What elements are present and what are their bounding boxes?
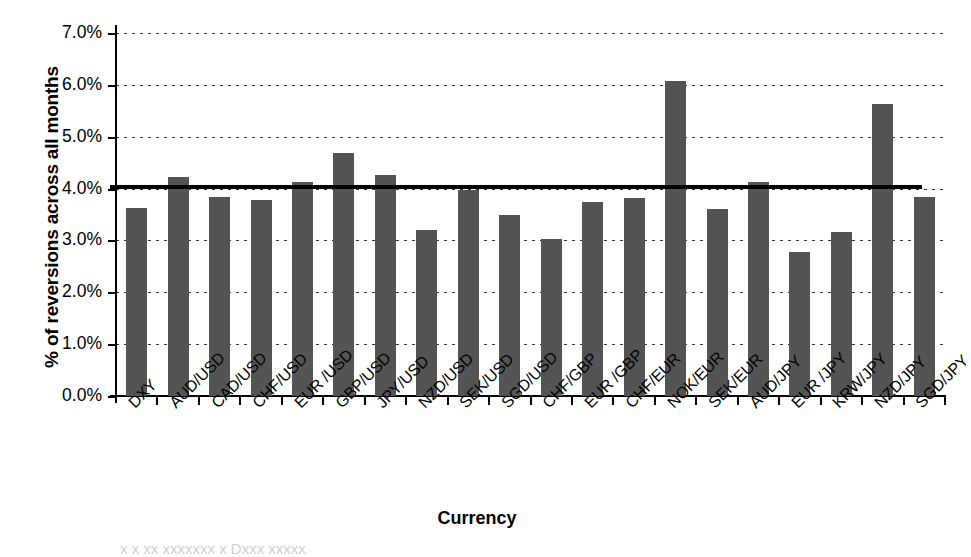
y-axis-line <box>115 25 117 403</box>
gridline <box>116 344 945 345</box>
y-axis-tick-labels: 0.0%1.0%2.0%3.0%4.0%5.0%6.0%7.0% <box>38 0 102 420</box>
bar <box>168 177 189 396</box>
y-tick-label: 4.0% <box>40 180 102 197</box>
x-axis-tick-labels: DXYAUD/USDCAD/USDCHF/USDEUR /USDGBP/USDJ… <box>116 399 956 509</box>
x-axis-title: Currency <box>0 508 954 529</box>
y-tick-mark <box>108 85 117 87</box>
plot-area <box>116 33 945 396</box>
gridline <box>116 240 945 241</box>
y-tick-label: 3.0% <box>40 231 102 248</box>
gridline <box>116 85 945 86</box>
page-bleed-text: x x xx xxxxxxx x Dxxx xxxxx <box>120 540 820 556</box>
gridline <box>116 33 945 34</box>
y-tick-mark <box>108 396 117 398</box>
y-tick-mark <box>108 344 117 346</box>
average-reference-line <box>110 185 922 189</box>
y-tick-label: 6.0% <box>40 76 102 93</box>
y-tick-mark <box>108 33 117 35</box>
bar <box>665 81 686 396</box>
bar <box>126 208 147 396</box>
y-tick-label: 5.0% <box>40 128 102 145</box>
y-tick-label: 0.0% <box>40 387 102 404</box>
gridline <box>116 137 945 138</box>
y-tick-label: 1.0% <box>40 335 102 352</box>
y-tick-mark <box>108 240 117 242</box>
y-tick-mark <box>108 292 117 294</box>
y-tick-mark <box>108 137 117 139</box>
y-tick-label: 2.0% <box>40 283 102 300</box>
y-tick-label: 7.0% <box>40 24 102 41</box>
gridline <box>116 292 945 293</box>
